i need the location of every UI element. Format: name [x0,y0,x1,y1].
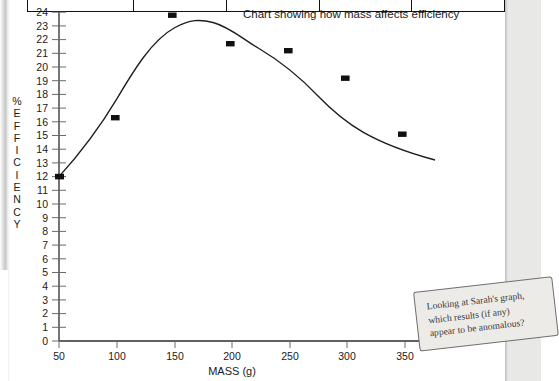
svg-text:0: 0 [42,335,48,347]
y-axis-letter: I [9,169,25,181]
x-axis-title: MASS (g) [208,365,256,377]
svg-text:7: 7 [42,239,48,251]
svg-text:20: 20 [36,61,48,73]
data-point-200g [226,41,235,46]
svg-text:22: 22 [36,33,48,45]
data-point-150g [168,13,177,18]
svg-text:150: 150 [166,350,184,362]
data-point-250g [284,48,293,53]
svg-text:14: 14 [36,143,48,155]
svg-text:19: 19 [36,75,48,87]
svg-text:4: 4 [42,280,48,292]
svg-text:16: 16 [36,116,48,128]
svg-text:300: 300 [338,350,356,362]
svg-text:10: 10 [36,198,48,210]
svg-text:200: 200 [223,350,241,362]
svg-text:24: 24 [36,6,48,18]
svg-text:13: 13 [36,157,48,169]
x-axis-ticks: 50 100 150 200 250 300 350 [53,341,414,362]
y-axis-title: % E F F I C I E N C Y [9,95,25,230]
y-axis-letter: C [9,206,25,218]
svg-text:9: 9 [42,212,48,224]
y-axis-letter: N [9,193,25,205]
data-point-300g [341,76,350,81]
data-point-50g [55,174,64,180]
svg-text:3: 3 [42,294,48,306]
svg-text:11: 11 [37,184,48,196]
svg-text:17: 17 [36,102,48,114]
y-axis-letter: F [9,120,25,132]
y-axis-letter: Y [9,218,25,230]
line-of-best-fit [59,20,435,176]
svg-text:1: 1 [42,321,48,333]
y-axis-letter: I [9,144,25,156]
svg-text:21: 21 [36,47,48,59]
svg-text:23: 23 [36,20,48,32]
svg-text:100: 100 [108,350,126,362]
svg-text:18: 18 [36,88,48,100]
data-point-350g [398,132,407,137]
y-axis-letter: C [9,156,25,168]
svg-text:250: 250 [281,350,299,362]
svg-text:15: 15 [36,129,48,141]
data-point-markers [55,13,407,180]
y-axis-letter: F [9,132,25,144]
svg-text:5: 5 [42,266,48,278]
y-axis-letter: % [9,95,25,107]
svg-text:350: 350 [396,350,414,362]
question-note-text: Looking at Sarah's graph, which results … [426,286,548,340]
svg-text:12: 12 [36,170,48,182]
data-point-100g [111,115,120,120]
chart-title: Chart showing how mass affects efficienc… [243,8,459,20]
y-axis-letter: E [9,107,25,119]
svg-text:8: 8 [42,225,48,237]
svg-text:6: 6 [42,253,48,265]
svg-text:50: 50 [53,350,65,362]
y-axis-letter: E [9,181,25,193]
svg-text:2: 2 [42,307,48,319]
